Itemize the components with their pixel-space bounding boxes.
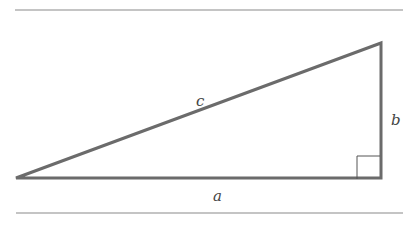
label-b: b [391,111,401,129]
triangle [16,43,381,178]
right-triangle-diagram: c b a [0,0,419,228]
label-a: a [213,187,222,205]
right-angle-marker [357,156,380,179]
label-c: c [196,92,205,110]
